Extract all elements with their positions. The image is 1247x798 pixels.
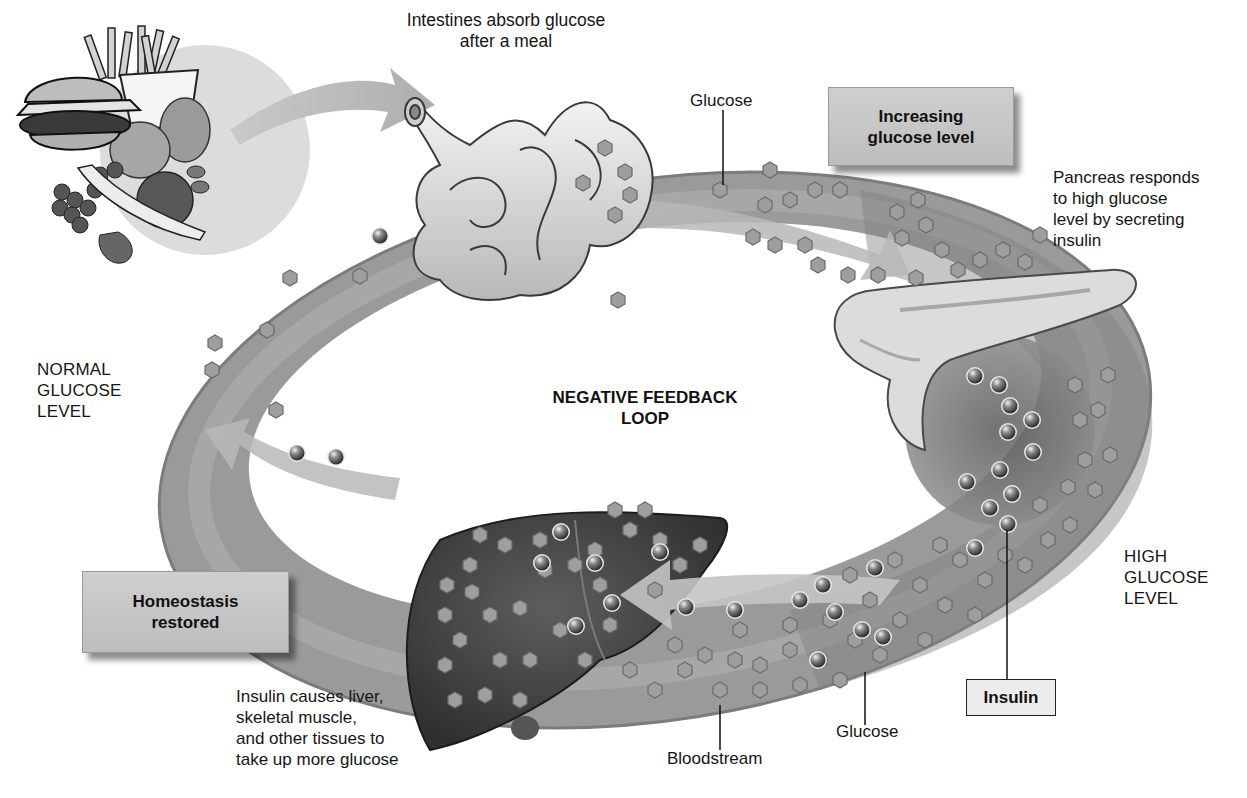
intestines-label-line-1: Intestines absorb glucose: [376, 10, 636, 31]
high-label-line-3: LEVEL: [1124, 588, 1209, 609]
normal-label-line-1: NORMAL: [37, 359, 122, 380]
liver-caption-line-3: and other tissues to: [236, 728, 399, 749]
glucose-bottom-label: Glucose: [836, 722, 898, 742]
homeostasis-box-line-1: Homeostasis: [133, 591, 239, 612]
homeostasis-box-line-2: restored: [133, 612, 239, 633]
increasing-glucose-box: Increasing glucose level: [828, 87, 1014, 166]
normal-label-line-2: GLUCOSE: [37, 380, 122, 401]
high-label-line-2: GLUCOSE: [1124, 567, 1209, 588]
pancreas-label-line-3: level by secreting: [1053, 209, 1199, 230]
title-line-1: NEGATIVE FEEDBACK: [500, 387, 790, 408]
pancreas-label: Pancreas responds to high glucose level …: [1053, 167, 1199, 251]
pancreas-label-line-4: insulin: [1053, 230, 1199, 251]
negative-feedback-diagram: Intestines absorb glucose after a meal G…: [0, 0, 1247, 798]
food-illustration: [18, 26, 435, 263]
intestines-label-line-2: after a meal: [376, 31, 636, 52]
normal-label-line-3: LEVEL: [37, 401, 122, 422]
liver-caption: Insulin causes liver, skeletal muscle, a…: [236, 686, 399, 770]
liver-caption-line-4: take up more glucose: [236, 749, 399, 770]
title-line-2: LOOP: [500, 408, 790, 429]
high-glucose-level-label: HIGH GLUCOSE LEVEL: [1124, 546, 1209, 609]
pancreas-label-line-1: Pancreas responds: [1053, 167, 1199, 188]
bloodstream-label: Bloodstream: [667, 749, 762, 769]
increasing-box-line-1: Increasing: [868, 106, 975, 127]
liver-caption-line-1: Insulin causes liver,: [236, 686, 399, 707]
intestines-label: Intestines absorb glucose after a meal: [376, 10, 636, 52]
normal-glucose-level-label: NORMAL GLUCOSE LEVEL: [37, 359, 122, 422]
pancreas-label-line-2: to high glucose: [1053, 188, 1199, 209]
homeostasis-restored-box: Homeostasis restored: [82, 571, 289, 653]
negative-feedback-title: NEGATIVE FEEDBACK LOOP: [500, 387, 790, 429]
glucose-top-label: Glucose: [690, 91, 752, 111]
insulin-box: Insulin: [966, 679, 1056, 716]
increasing-box-line-2: glucose level: [868, 127, 975, 148]
high-label-line-1: HIGH: [1124, 546, 1209, 567]
liver-caption-line-2: skeletal muscle,: [236, 707, 399, 728]
